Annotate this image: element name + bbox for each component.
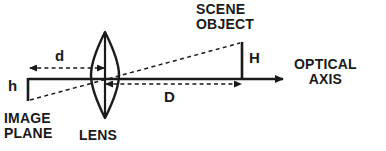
lens-shape <box>91 32 119 118</box>
image-height-label: h <box>8 78 17 94</box>
scene-object-line-2: OBJECT <box>196 16 254 32</box>
image-plane-line-2: PLANE <box>4 125 52 141</box>
lens-label: LENS <box>79 128 117 143</box>
image-plane-label: IMAGEPLANE <box>4 111 52 141</box>
scene-object-line-1: SCENE <box>196 1 245 17</box>
optics-diagram: SCENEOBJECT OPTICALAXIS IMAGEPLANE LENS … <box>0 0 386 151</box>
scene-object-label: SCENEOBJECT <box>196 2 254 32</box>
optical-axis-label: OPTICALAXIS <box>294 57 357 87</box>
object-height-label: H <box>249 50 260 66</box>
object-distance-label: D <box>164 89 175 105</box>
optical-axis-line-1: OPTICAL <box>294 56 357 72</box>
optical-axis-line-2: AXIS <box>294 72 357 87</box>
image-distance-label: d <box>55 48 64 64</box>
image-plane-line-1: IMAGE <box>4 110 51 126</box>
